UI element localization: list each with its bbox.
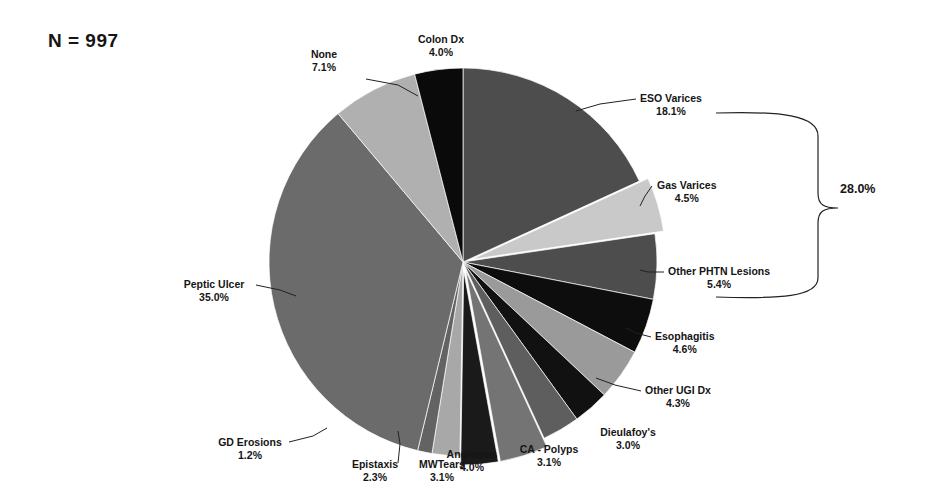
callout-other-phtn: Other PHTN Lesions 5.4% — [668, 265, 770, 291]
callout-pct-dieulafoy: 3.0% — [592, 439, 664, 452]
callout-dieulafoy: Dieulafoy's 3.0% — [592, 426, 664, 452]
callout-eso-varices: ESO Varices 18.1% — [640, 92, 702, 118]
bracket-total-label: 28.0% — [840, 182, 875, 196]
callout-pct-ca-polyps: 3.1% — [510, 456, 588, 469]
callout-pct-other-ugi: 4.3% — [645, 397, 711, 410]
leader-line-gd-erosions — [289, 428, 327, 442]
callout-gas-varices: Gas Varices 4.5% — [657, 179, 717, 205]
callout-pct-epistaxis: 2.3% — [346, 471, 404, 484]
callout-label-other-ugi: Other UGI Dx — [645, 384, 711, 396]
callout-mwtears: MWTears 3.1% — [411, 458, 473, 484]
pie-slices — [269, 68, 664, 465]
callout-label-gd-erosions: GD Erosions — [218, 436, 282, 448]
callout-label-other-phtn: Other PHTN Lesions — [668, 265, 770, 277]
callout-gd-erosions: GD Erosions 1.2% — [211, 436, 289, 462]
callout-label-ca-polyps: CA - Polyps — [520, 443, 579, 455]
callout-label-epistaxis: Epistaxis — [352, 458, 398, 470]
callout-none: None 7.1% — [288, 48, 360, 74]
callout-label-esophagitis: Esophagitis — [655, 330, 715, 342]
callout-label-colon-dx: Colon Dx — [418, 33, 464, 45]
pie-svg — [0, 0, 926, 504]
callout-pct-gas-varices: 4.5% — [657, 192, 717, 205]
pie-chart-figure: N = 997 Colon Dx — [0, 0, 926, 504]
callout-label-dieulafoy: Dieulafoy's — [600, 426, 656, 438]
callout-pct-eso-varices: 18.1% — [640, 105, 702, 118]
callout-label-eso-varices: ESO Varices — [640, 92, 702, 104]
callout-pct-esophagitis: 4.6% — [655, 343, 715, 356]
callout-label-peptic-ulcer: Peptic Ulcer — [184, 278, 245, 290]
callout-pct-mwtears: 3.1% — [411, 471, 473, 484]
callout-peptic-ulcer: Peptic Ulcer 35.0% — [172, 278, 256, 304]
callout-label-mwtears: MWTears — [419, 458, 465, 470]
leader-line-eso-varices — [576, 99, 636, 111]
callout-label-gas-varices: Gas Varices — [657, 179, 717, 191]
callout-epistaxis: Epistaxis 2.3% — [346, 458, 404, 484]
callout-pct-none: 7.1% — [288, 61, 360, 74]
callout-pct-colon-dx: 4.0% — [396, 46, 486, 59]
callout-colon-dx: Colon Dx 4.0% — [396, 33, 486, 59]
callout-label-none: None — [311, 48, 337, 60]
callout-esophagitis: Esophagitis 4.6% — [655, 330, 715, 356]
callout-other-ugi: Other UGI Dx 4.3% — [645, 384, 711, 410]
callout-pct-gd-erosions: 1.2% — [211, 449, 289, 462]
callout-pct-peptic-ulcer: 35.0% — [172, 291, 256, 304]
callout-ca-polyps: CA - Polyps 3.1% — [510, 443, 588, 469]
callout-pct-other-phtn: 5.4% — [668, 278, 770, 291]
